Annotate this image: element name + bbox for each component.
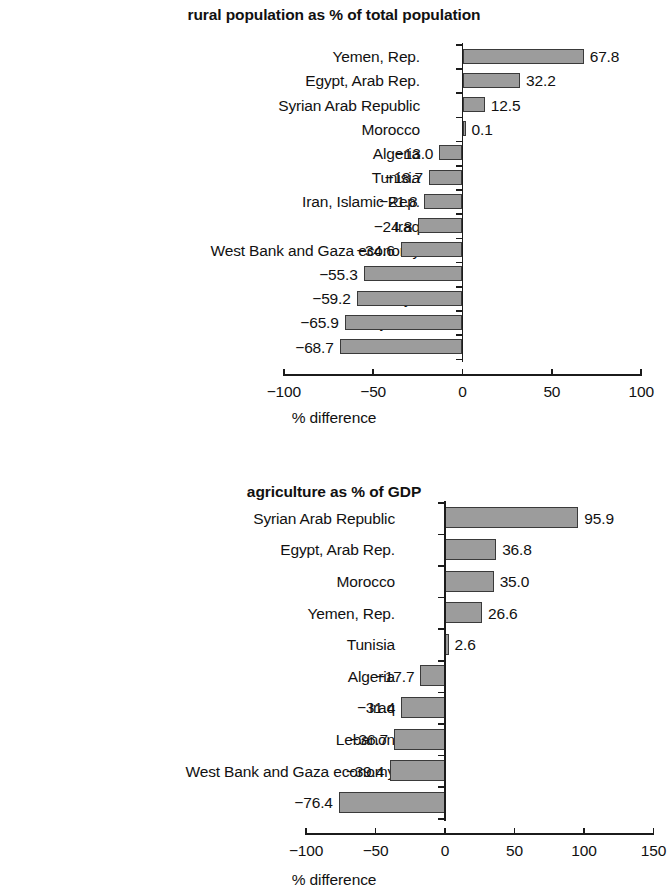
- bar: [424, 194, 463, 209]
- bar: [463, 73, 521, 88]
- x-axis-tick-label: 100: [601, 384, 668, 400]
- category-label: Tunisia: [347, 637, 395, 653]
- bar: [463, 49, 584, 64]
- category-label: Morocco: [362, 122, 420, 138]
- category-label: Yemen, Rep.: [333, 49, 420, 65]
- bar: [439, 145, 462, 160]
- category-label: Egypt, Arab Rep.: [305, 73, 420, 89]
- x-axis-tick-label: −100: [266, 843, 346, 859]
- x-axis-tick: [583, 828, 585, 835]
- x-axis-tick: [653, 828, 655, 835]
- x-axis-tick: [551, 369, 553, 376]
- bar-value-label: −31.4: [357, 700, 395, 716]
- x-axis-tick-label: 0: [405, 843, 485, 859]
- x-axis-tick: [444, 828, 446, 835]
- bar-value-label: 32.2: [526, 73, 556, 89]
- bar-value-label: 0.1: [472, 122, 493, 138]
- bar-value-label: 67.8: [590, 49, 620, 65]
- x-axis-tick-label: 100: [544, 843, 624, 859]
- bar: [420, 665, 445, 686]
- bar-value-label: −17.7: [376, 669, 414, 685]
- chart-rural-population: rural population as % of total populatio…: [0, 0, 668, 440]
- bar: [401, 242, 463, 257]
- x-axis-tick-label: 50: [475, 843, 555, 859]
- bar: [345, 315, 463, 330]
- bar-value-label: 2.6: [455, 637, 476, 653]
- zero-axis-line: [444, 501, 446, 821]
- category-label: Syrian Arab Republic: [278, 98, 420, 114]
- x-axis-tick-label: 150: [614, 843, 668, 859]
- x-axis-title: % difference: [0, 409, 668, 427]
- bar: [390, 760, 445, 781]
- x-axis-tick: [375, 828, 377, 835]
- x-axis-tick: [462, 369, 464, 376]
- bar-value-label: −59.2: [312, 291, 350, 307]
- bar: [429, 170, 462, 185]
- bar: [418, 218, 462, 233]
- x-axis-tick-label: −50: [333, 384, 413, 400]
- bar-value-label: −21.8: [379, 194, 417, 210]
- figure-page: rural population as % of total populatio…: [0, 0, 668, 893]
- bar: [401, 697, 445, 718]
- bar-value-label: −76.4: [294, 795, 332, 811]
- bar-value-label: 26.6: [488, 606, 518, 622]
- x-axis-tick: [640, 369, 642, 376]
- x-axis-tick-label: −100: [244, 384, 324, 400]
- bar-value-label: −55.3: [319, 267, 357, 283]
- category-label: Syrian Arab Republic: [253, 511, 395, 527]
- bar-value-label: −18.7: [385, 170, 423, 186]
- x-axis-tick-label: 50: [512, 384, 592, 400]
- x-axis-line: [306, 833, 654, 835]
- chart-agriculture-gdp: agriculture as % of GDP Syrian Arab Repu…: [0, 440, 668, 893]
- bar: [340, 339, 463, 354]
- x-axis-title: % difference: [0, 871, 668, 889]
- category-label: Yemen, Rep.: [308, 606, 395, 622]
- x-axis-tick: [283, 369, 285, 376]
- x-axis-tick: [514, 828, 516, 835]
- category-label: Egypt, Arab Rep.: [280, 542, 395, 558]
- bar: [445, 602, 482, 623]
- x-axis-tick-label: 0: [423, 384, 503, 400]
- x-axis-tick-label: −50: [336, 843, 416, 859]
- bar: [445, 571, 494, 592]
- bar-value-label: 35.0: [500, 574, 530, 590]
- x-axis-tick: [372, 369, 374, 376]
- bar: [394, 729, 445, 750]
- bar: [364, 266, 463, 281]
- bar-value-label: 36.8: [502, 542, 532, 558]
- bar: [463, 97, 485, 112]
- plot-area: Syrian Arab Republic95.9Egypt, Arab Rep.…: [0, 440, 668, 893]
- bar: [445, 507, 578, 528]
- bar-value-label: −13.0: [395, 146, 433, 162]
- bar-value-label: −24.8: [374, 219, 412, 235]
- bar: [339, 792, 445, 813]
- bar: [357, 291, 463, 306]
- bar-value-label: −68.7: [295, 340, 333, 356]
- bar-value-label: −39.4: [346, 764, 384, 780]
- x-axis-tick: [305, 828, 307, 835]
- bar-value-label: −65.9: [300, 315, 338, 331]
- bar: [445, 539, 496, 560]
- bar-value-label: −36.7: [350, 732, 388, 748]
- plot-area: Yemen, Rep.67.8Egypt, Arab Rep.32.2Syria…: [0, 0, 668, 440]
- bar-value-label: 12.5: [491, 98, 521, 114]
- bar-value-label: −34.6: [356, 243, 394, 259]
- zero-axis-line: [462, 43, 464, 362]
- category-label: Morocco: [337, 574, 395, 590]
- bar-value-label: 95.9: [584, 511, 614, 527]
